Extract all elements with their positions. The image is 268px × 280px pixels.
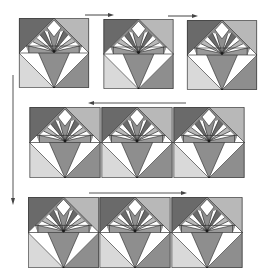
row-2-block-3 xyxy=(173,107,245,178)
row-3-arrow xyxy=(89,190,187,196)
fan-block-icon xyxy=(101,107,173,178)
row-2-block-1 xyxy=(29,107,101,178)
fan-block-icon xyxy=(18,18,90,88)
row-3-block-2 xyxy=(99,197,171,268)
fan-block-icon xyxy=(29,107,101,178)
fan-block-icon xyxy=(171,197,243,268)
fan-block-icon xyxy=(102,19,175,89)
row-2-block-2 xyxy=(101,107,173,178)
row-1-arrow-b xyxy=(168,13,198,19)
row-1-arrow-a xyxy=(85,12,114,18)
arrow-right-icon xyxy=(168,13,198,19)
fan-block-icon xyxy=(28,197,99,268)
fan-block-icon xyxy=(173,107,245,178)
row-1-block-1 xyxy=(18,18,90,88)
vertical-arrow xyxy=(10,75,16,205)
arrow-left-icon xyxy=(88,100,186,106)
arrow-down-icon xyxy=(10,75,16,205)
fan-block-icon xyxy=(99,197,171,268)
row-1-block-3 xyxy=(186,20,258,90)
fan-block-icon xyxy=(186,20,258,90)
row-3-block-1 xyxy=(28,197,99,268)
row-3-block-3 xyxy=(171,197,243,268)
arrow-right-icon xyxy=(89,190,187,196)
row-1-block-2 xyxy=(102,19,175,89)
row-2-arrow xyxy=(88,100,186,106)
arrow-right-icon xyxy=(85,12,114,18)
